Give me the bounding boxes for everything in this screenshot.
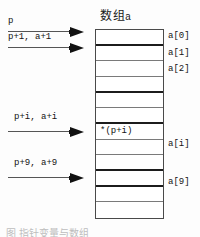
- array-pointer-diagram: 数组a *(p+i) a[0]a[1]a[2]a[i]a[9] pp+1, a+…: [0, 0, 200, 237]
- figure-title-main: 数组: [100, 9, 125, 23]
- pointer-arrow-head: [70, 43, 84, 53]
- pointer-arrow-line: [8, 177, 70, 178]
- array-cell: [96, 202, 163, 218]
- pointer-label: p: [8, 16, 13, 26]
- array-index-label: a[2]: [168, 64, 190, 74]
- figure-title-sub: a: [125, 12, 132, 23]
- figure-caption-strip: 图 指针变量与数组: [0, 228, 200, 237]
- array-index-label: a[9]: [168, 177, 190, 187]
- array-index-label: a[1]: [168, 48, 190, 58]
- array-box: *(p+i): [95, 29, 164, 219]
- array-cell: [96, 61, 163, 77]
- pointer-arrow-head: [70, 27, 84, 37]
- figure-title: 数组a: [100, 6, 180, 23]
- array-cell: [96, 77, 163, 93]
- pointer-arrow-head: [70, 127, 84, 137]
- array-cell: [96, 140, 163, 156]
- pointer-arrow-line: [8, 131, 70, 132]
- array-cell: [96, 155, 163, 171]
- pointer-arrow-line: [8, 47, 70, 48]
- array-cell: [96, 93, 163, 109]
- pointer-label: p+i, a+i: [14, 112, 57, 122]
- array-cell: [96, 171, 163, 187]
- figure-caption: 图 指针变量与数组: [6, 228, 89, 237]
- array-cell-expression: *(p+i): [96, 124, 163, 140]
- pointer-label: p+1, a+1: [8, 32, 51, 42]
- pointer-arrow-head: [70, 173, 84, 183]
- array-cell: [96, 187, 163, 203]
- array-index-label: a[0]: [168, 31, 190, 41]
- array-index-label: a[i]: [168, 139, 190, 149]
- array-cell: [96, 30, 163, 46]
- pointer-label: p+9, a+9: [14, 158, 57, 168]
- array-cell: [96, 46, 163, 62]
- array-cell: [96, 108, 163, 124]
